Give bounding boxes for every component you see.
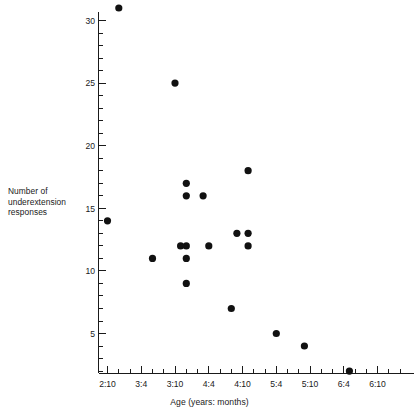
- y-tick-label: 25: [85, 78, 95, 88]
- data-point: [200, 192, 207, 199]
- data-point: [183, 192, 190, 199]
- x-tick-label: 5:4: [270, 379, 282, 389]
- x-tick-label: 4:10: [234, 379, 251, 389]
- y-tick-label: 30: [85, 16, 95, 26]
- x-axis-ticks: [108, 366, 401, 373]
- data-point: [245, 242, 252, 249]
- data-point: [346, 368, 353, 375]
- x-tick-label: 6:10: [369, 379, 386, 389]
- y-axis-ticks: [99, 21, 106, 372]
- y-tick-label: 20: [85, 141, 95, 151]
- x-tick-label: 6:4: [338, 379, 350, 389]
- scatter-chart: 51015202530 2:103:43:104:44:105:45:106:4…: [0, 0, 419, 420]
- x-axis-tick-labels: 2:103:43:104:44:105:45:106:46:10: [99, 379, 386, 389]
- data-point: [149, 255, 156, 262]
- y-axis-title-line-2: underextension: [8, 197, 88, 208]
- data-point: [183, 180, 190, 187]
- data-point: [233, 230, 240, 237]
- data-point: [245, 167, 252, 174]
- data-point: [205, 242, 212, 249]
- y-tick-label: 10: [85, 266, 95, 276]
- x-axis-title: Age (years: months): [0, 397, 419, 407]
- data-point: [171, 80, 178, 87]
- data-point: [177, 242, 184, 249]
- x-tick-label: 3:4: [135, 379, 147, 389]
- data-point: [228, 305, 235, 312]
- y-tick-label: 5: [90, 329, 95, 339]
- x-axis: 2:103:43:104:44:105:45:106:46:10: [99, 366, 415, 389]
- x-tick-label: 2:10: [99, 379, 116, 389]
- y-axis-title-line-3: responses: [8, 207, 88, 218]
- data-point: [301, 342, 308, 349]
- data-points: [104, 4, 353, 374]
- y-axis-title: Number of underextension responses: [8, 186, 88, 218]
- data-point: [115, 4, 122, 11]
- x-tick-label: 5:10: [302, 379, 319, 389]
- data-point: [273, 330, 280, 337]
- y-axis: 51015202530: [85, 12, 106, 373]
- y-axis-title-line-1: Number of: [8, 186, 88, 197]
- data-point: [183, 280, 190, 287]
- data-point: [183, 255, 190, 262]
- y-axis-tick-labels: 51015202530: [85, 16, 95, 339]
- data-point: [104, 217, 111, 224]
- x-tick-label: 3:10: [167, 379, 184, 389]
- x-tick-label: 4:4: [203, 379, 215, 389]
- data-point: [245, 230, 252, 237]
